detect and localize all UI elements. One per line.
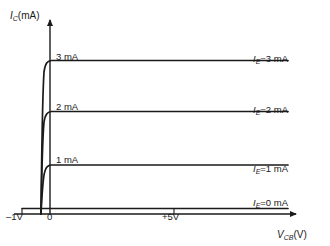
x-axis-title: VCB(V) bbox=[277, 230, 307, 240]
curve-label-ie-2ma-value: =2 mA bbox=[260, 104, 288, 115]
curve-label-ie-0ma-value: =0 mA bbox=[260, 197, 288, 208]
characteristic-curves-plot bbox=[0, 0, 330, 246]
curve-label-ie-0ma-subscript: E bbox=[256, 202, 261, 209]
x-axis-unit: (V) bbox=[293, 229, 306, 240]
x-axis-symbol: V bbox=[277, 229, 284, 240]
y-value-label-one-milliamp: 1 mA bbox=[56, 155, 78, 165]
x-tick-label-zero: 0 bbox=[47, 212, 52, 222]
y-value-label-three-milliamp: 3 mA bbox=[56, 52, 78, 62]
x-tick-label-plus-five-volt: +5V bbox=[162, 212, 179, 222]
y-axis-unit: (mA) bbox=[18, 10, 40, 21]
transistor-characteristics-figure: IC(mA) VCB(V) –1V 0 +5V 3 mA 2 mA 1 mA I… bbox=[0, 0, 330, 246]
curve-label-ie-3ma: IE=3 mA bbox=[253, 54, 288, 64]
curve-label-ie-1ma: IE=1 mA bbox=[253, 164, 288, 174]
x-tick-label-neg-one-volt: –1V bbox=[6, 212, 23, 222]
y-axis-subscript: C bbox=[13, 15, 18, 22]
curve-label-ie-2ma: IE=2 mA bbox=[253, 105, 288, 115]
curve-label-ie-0ma: IE=0 mA bbox=[253, 198, 288, 208]
curve-ie-3ma bbox=[41, 61, 288, 215]
x-axis-subscript: CB bbox=[284, 234, 294, 241]
curve-label-ie-3ma-value: =3 mA bbox=[260, 53, 288, 64]
curve-label-ie-1ma-subscript: E bbox=[256, 168, 261, 175]
curve-label-ie-2ma-subscript: E bbox=[256, 109, 261, 116]
y-value-label-two-milliamp: 2 mA bbox=[56, 102, 78, 112]
y-axis-title: IC(mA) bbox=[10, 11, 40, 21]
curve-label-ie-1ma-value: =1 mA bbox=[260, 163, 288, 174]
curve-ie-1ma bbox=[41, 165, 288, 214]
curve-label-ie-3ma-subscript: E bbox=[256, 58, 261, 65]
